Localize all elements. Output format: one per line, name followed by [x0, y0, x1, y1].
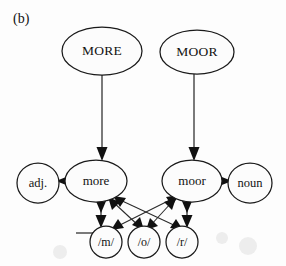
node-lexical-more-label: more — [83, 173, 110, 188]
panel-tag: (b) — [13, 11, 30, 27]
node-category-adj[interactable]: adj. — [17, 163, 59, 203]
node-category-noun[interactable]: noun — [228, 163, 272, 203]
node-word-more-label: MORE — [82, 43, 122, 58]
node-phoneme-o-label: /o/ — [138, 235, 151, 249]
edge-more-to-lexical-more — [97, 75, 108, 161]
node-lexical-more[interactable]: more — [65, 160, 127, 202]
node-lexical-moor-label: moor — [178, 173, 206, 188]
node-word-moor-label: MOOR — [176, 44, 217, 59]
node-word-moor[interactable]: MOOR — [160, 30, 234, 74]
edge-moor-to-lexical-moor — [189, 74, 200, 161]
figure-panel-b: (b) — [0, 0, 286, 266]
node-category-noun-label: noun — [238, 176, 264, 190]
edge-moor-r-bidirectional — [182, 200, 193, 228]
edge-more-m-bidirectional — [96, 200, 107, 228]
node-word-more[interactable]: MORE — [62, 27, 142, 75]
node-phoneme-o[interactable]: /o/ — [128, 226, 160, 258]
diagram-canvas: (b) — [0, 0, 286, 266]
node-phoneme-r[interactable]: /r/ — [166, 226, 198, 258]
node-phoneme-m[interactable]: /m/ — [90, 226, 122, 258]
node-category-adj-label: adj. — [29, 176, 47, 190]
edge-more-o-bidirectional — [108, 197, 144, 230]
node-phoneme-r-label: /r/ — [177, 235, 188, 249]
node-phoneme-m-label: /m/ — [98, 235, 115, 249]
node-lexical-moor[interactable]: moor — [162, 160, 222, 202]
